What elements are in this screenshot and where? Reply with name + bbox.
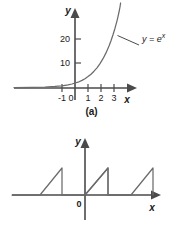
y-tick-label-20: 20 (60, 34, 70, 44)
x-tick-label-0: 0 (68, 93, 73, 103)
x-axis-label: x (123, 94, 130, 105)
exponential-chart-svg: -1 0 1 2 3 20 10 x y y = ex (0, 0, 183, 110)
x-tick-label-2: 2 (98, 93, 103, 103)
x-axis-arrowhead (127, 84, 137, 93)
panel-a-exponential-plot: -1 0 1 2 3 20 10 x y y = ex (a) (0, 0, 183, 124)
sawtooth-chart-svg: x y 0 (0, 125, 183, 230)
curve-label: y = ex (141, 32, 166, 44)
y-tick-label-10: 10 (60, 58, 70, 68)
panel-b-sawtooth-plot: x y 0 (b) (0, 125, 183, 247)
curve-label-exponent: x (161, 32, 166, 39)
x-axis-label: x (148, 202, 155, 213)
origin-label: 0 (76, 199, 81, 209)
curve-label-base: y = e (141, 34, 162, 44)
sawtooth-waveform-left (12, 168, 131, 195)
y-axis-label: y (64, 5, 71, 16)
figure-container: -1 0 1 2 3 20 10 x y y = ex (a) (0, 0, 183, 247)
curve-label-leader-line (118, 36, 140, 46)
y-axis-label: y (74, 136, 81, 147)
y-axis-arrowhead (81, 138, 90, 148)
x-tick-label-neg1: -1 (58, 93, 66, 103)
y-axis-arrowhead (71, 8, 80, 18)
x-tick-label-1: 1 (85, 93, 90, 103)
panel-a-caption: (a) (0, 106, 183, 117)
x-tick-label-3: 3 (111, 93, 116, 103)
sawtooth-waveform-right (85, 168, 153, 195)
